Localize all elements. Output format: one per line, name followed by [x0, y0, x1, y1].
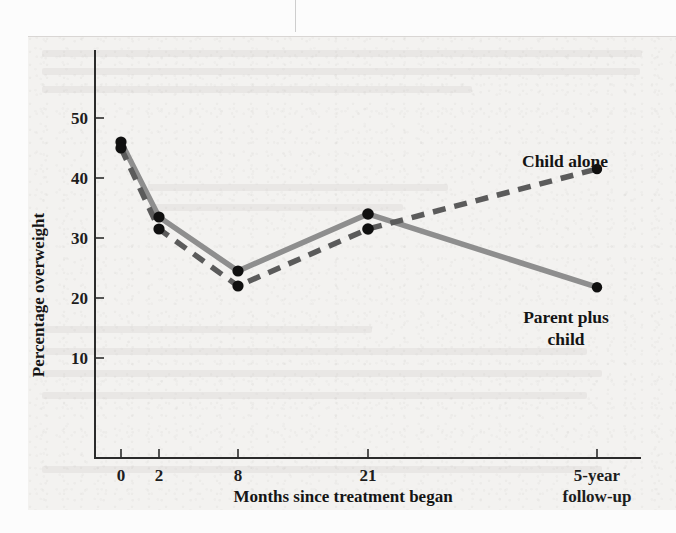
chart-figure: 50 40 30 20 10 Percentage overweight 0 2…: [0, 0, 676, 533]
x-tick-label-2: 2: [155, 466, 164, 485]
data-point-marker: [232, 280, 243, 291]
x-tick-group: [121, 449, 597, 458]
data-point-marker: [115, 142, 126, 153]
data-point-marker: [153, 211, 164, 222]
y-tick-label-10: 10: [71, 349, 88, 368]
data-point-marker: [362, 223, 374, 235]
series-annotation-parent-plus-child-line1: Parent plus: [523, 307, 609, 327]
y-tick-label-40: 40: [71, 169, 88, 188]
data-point-marker: [592, 282, 602, 292]
x-tick-label-21: 21: [360, 466, 377, 485]
x-tick-label-0: 0: [117, 466, 126, 485]
y-axis-title: Percentage overweight: [29, 212, 48, 377]
y-tick-label-30: 30: [71, 229, 88, 248]
data-point-marker: [362, 208, 374, 220]
data-point-marker: [153, 223, 164, 234]
series-annotation-child-alone: Child alone: [522, 151, 608, 171]
data-point-marker: [232, 265, 243, 276]
x-axis-title: Months since treatment began: [233, 487, 453, 506]
x-tick-label-8: 8: [234, 466, 243, 485]
y-tick-label-20: 20: [71, 289, 88, 308]
series-annotation-parent-plus-child-line2: child: [548, 329, 585, 349]
y-tick-group: [95, 118, 104, 358]
y-tick-label-50: 50: [71, 109, 88, 128]
x-tick-label-follow-up: follow-up: [563, 487, 632, 506]
x-tick-label-5-year: 5-year: [574, 466, 621, 485]
